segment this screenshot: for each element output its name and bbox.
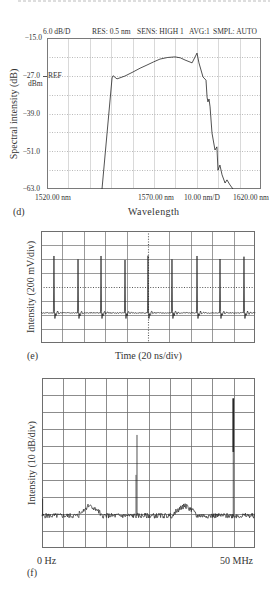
x-tick-stop: 50 MHz: [220, 555, 253, 567]
osa-scale-setting: 6.0 dB/D: [43, 27, 71, 36]
x-tick-stop: 1620.00 nm: [233, 193, 269, 202]
y-axis-title: Intensity (10 dB/div): [26, 407, 38, 519]
oscilloscope-plot: [41, 231, 255, 343]
osa-averaging-value: 1: [206, 27, 210, 36]
osa-sensitivity-setting: SENS: HIGH 1: [137, 27, 184, 36]
rf-spectrum-plot: [42, 378, 255, 548]
panel-label-d: (d): [13, 206, 25, 218]
y-tick-label: −63.0: [10, 184, 40, 193]
panel-label-f: (f): [27, 567, 37, 579]
y-tick-label: −15.0: [12, 33, 42, 42]
osa-sampling-setting: SMPL: AUTO: [213, 27, 257, 36]
x-tick-start: 1520.00 nm: [35, 193, 71, 202]
y-axis-title: Intensity (200 mV/div): [25, 231, 37, 343]
spectrum-plot: [47, 38, 261, 189]
x-tick-center: 1570.00 nm: [138, 193, 174, 202]
x-scale-per-div: 10.00 nm/D: [184, 193, 220, 202]
osa-resolution-setting: RES: 0.5 nm: [92, 27, 131, 36]
y-axis-title: Spectral intensity (dB): [8, 58, 20, 170]
panel-label-e: (e): [27, 350, 38, 362]
cropped-text-fragment: [18, 0, 270, 2]
x-axis-title: Wavelength: [128, 206, 180, 218]
reference-unit-label: dBm: [28, 79, 43, 88]
osa-averaging-label: AVG:: [189, 27, 206, 36]
x-axis-title: Time (20 ns/div): [115, 350, 182, 362]
x-tick-start: 0 Hz: [37, 555, 56, 567]
